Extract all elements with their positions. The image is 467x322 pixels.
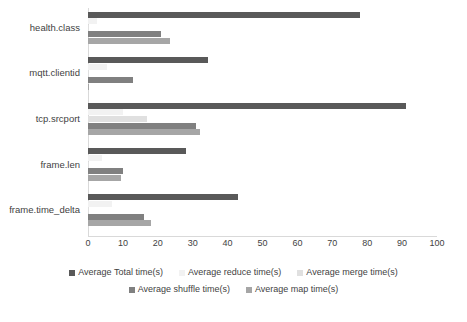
bar [88, 201, 112, 207]
value-tick-label: 40 [223, 238, 233, 249]
legend-label: Average merge time(s) [306, 267, 397, 278]
legend-row-1: Average Total time(s)Average reduce time… [0, 267, 467, 278]
legend-label: Average Total time(s) [78, 267, 163, 278]
bar [88, 12, 360, 18]
bar [88, 168, 123, 174]
bar-group [88, 103, 437, 135]
bar [88, 129, 200, 135]
bar [88, 64, 107, 70]
legend-swatch-icon [179, 270, 185, 276]
legend-swatch-icon [69, 270, 75, 276]
legend-item[interactable]: Average shuffle time(s) [129, 284, 230, 295]
value-tick-label: 100 [429, 238, 444, 249]
legend-item[interactable]: Average Total time(s) [69, 267, 163, 278]
value-tick-label: 60 [292, 238, 302, 249]
bar-group [88, 57, 437, 89]
legend-item[interactable]: Average reduce time(s) [179, 267, 281, 278]
legend-row-2: Average shuffle time(s)Average map time(… [0, 284, 467, 295]
bar [88, 38, 170, 44]
bar [88, 175, 121, 181]
value-axis: 0102030405060708090100 [88, 238, 437, 252]
category-axis-line [88, 236, 437, 237]
bar [88, 207, 89, 213]
bar [88, 77, 133, 83]
bar-group [88, 194, 437, 226]
bar-chart: health.classmqtt.clientidtcp.srcportfram… [0, 0, 467, 322]
bar [88, 194, 238, 200]
category-label: health.class [30, 23, 80, 33]
bar-group [88, 12, 437, 44]
bar [88, 84, 89, 90]
bar [88, 155, 102, 161]
value-tick-label: 70 [327, 238, 337, 249]
bar [88, 162, 89, 168]
bar [88, 214, 144, 220]
plot-wrapper: health.classmqtt.clientidtcp.srcportfram… [0, 0, 467, 250]
value-tick-label: 90 [397, 238, 407, 249]
legend-swatch-icon [246, 287, 252, 293]
category-axis: health.classmqtt.clientidtcp.srcportfram… [0, 8, 84, 236]
legend-swatch-icon [297, 270, 303, 276]
category-label: frame.time_delta [9, 205, 80, 215]
legend-label: Average map time(s) [255, 284, 338, 295]
chart-legend: Average Total time(s)Average reduce time… [0, 264, 467, 304]
legend-label: Average reduce time(s) [188, 267, 281, 278]
bar [88, 109, 123, 115]
category-label: mqtt.clientid [29, 68, 80, 78]
bar [88, 18, 97, 24]
legend-swatch-icon [129, 287, 135, 293]
value-tick-label: 0 [85, 238, 90, 249]
value-tick-label: 10 [118, 238, 128, 249]
value-tick-label: 20 [153, 238, 163, 249]
bar [88, 148, 186, 154]
legend-item[interactable]: Average merge time(s) [297, 267, 397, 278]
value-tick-label: 50 [257, 238, 267, 249]
value-tick-label: 30 [188, 238, 198, 249]
bar [88, 31, 161, 37]
bar [88, 116, 147, 122]
category-label: tcp.srcport [36, 114, 80, 124]
bar [88, 220, 151, 226]
category-label: frame.len [40, 160, 80, 170]
bar [88, 70, 89, 76]
bar-group [88, 148, 437, 180]
bar [88, 57, 208, 63]
value-tick-label: 80 [362, 238, 372, 249]
bar [88, 123, 196, 129]
legend-label: Average shuffle time(s) [138, 284, 230, 295]
plot-area [88, 8, 437, 236]
bar [88, 25, 89, 31]
bar [88, 103, 406, 109]
legend-item[interactable]: Average map time(s) [246, 284, 338, 295]
